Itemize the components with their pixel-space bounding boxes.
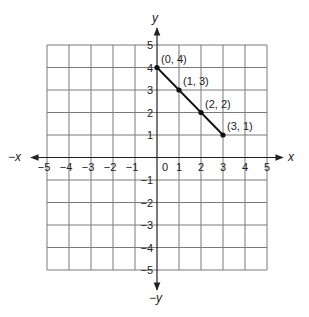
x-axis-label: x (287, 150, 295, 164)
y-tick-label: 2 (147, 107, 153, 119)
x-tick-label: −4 (60, 161, 73, 173)
data-point (176, 87, 181, 92)
x-tick-label: 4 (242, 161, 248, 173)
point-label: (1, 3) (183, 75, 209, 87)
point-label: (2, 2) (205, 98, 231, 110)
x-tick-label: −2 (104, 161, 117, 173)
data-point (220, 132, 225, 137)
x-tick-label: −5 (38, 161, 51, 173)
data-point (198, 110, 203, 115)
y-axis-label: y (151, 11, 159, 25)
x-tick-label: 2 (198, 161, 204, 173)
coordinate-plane: x −x y −y −5−4−3−2−1012345 54321−1−2−3−4… (0, 0, 309, 317)
data-series: (0, 4)(1, 3)(2, 2)(3, 1) (154, 53, 252, 138)
y-axis-negative-label: −y (149, 291, 163, 305)
x-axis-negative-label: −x (8, 150, 22, 164)
x-tick-label: −3 (82, 161, 95, 173)
y-tick-label: 1 (147, 129, 153, 141)
y-tick-label: −5 (140, 264, 153, 276)
x-tick-label: 0 (162, 161, 168, 173)
point-label: (0, 4) (161, 53, 187, 65)
x-tick-label: 3 (220, 161, 226, 173)
x-tick-label: −1 (126, 161, 139, 173)
x-tick-label: 1 (176, 161, 182, 173)
y-tick-label: −4 (140, 242, 153, 254)
point-label: (3, 1) (227, 120, 253, 132)
y-tick-label: 4 (147, 62, 153, 74)
y-tick-label: −2 (140, 197, 153, 209)
data-point (154, 65, 159, 70)
x-tick-labels: −5−4−3−2−1012345 (38, 161, 270, 173)
y-tick-label: 5 (147, 39, 153, 51)
y-tick-label: −1 (140, 174, 153, 186)
x-tick-label: 5 (264, 161, 270, 173)
y-tick-label: −3 (140, 219, 153, 231)
y-tick-label: 3 (147, 84, 153, 96)
